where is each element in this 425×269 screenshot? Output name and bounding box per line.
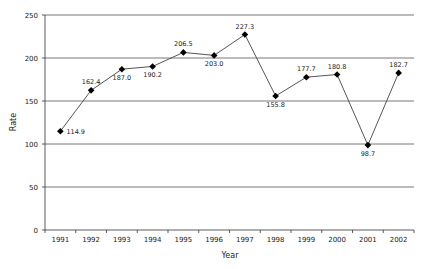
line-chart: 050100150200250 199119921993199419951996… <box>0 0 425 269</box>
data-label: 155.8 <box>266 101 285 109</box>
x-tick-label: 2000 <box>328 236 346 244</box>
y-tick-label: 50 <box>29 184 38 192</box>
x-tick-label: 2001 <box>359 236 377 244</box>
data-label: 162.4 <box>82 78 101 86</box>
x-tick-label: 1997 <box>236 236 254 244</box>
y-tick-label: 150 <box>25 98 38 106</box>
x-tick-label: 1993 <box>113 236 131 244</box>
x-tick-label: 1996 <box>205 236 223 244</box>
data-label: 203.0 <box>205 60 224 68</box>
x-tick-label: 1992 <box>82 236 100 244</box>
diamond-marker <box>180 49 187 56</box>
diamond-marker <box>272 93 279 100</box>
gridlines <box>45 15 414 187</box>
data-label: 227.3 <box>236 23 255 31</box>
data-label: 180.8 <box>328 63 347 71</box>
y-axis-label: Rate <box>9 113 18 131</box>
y-axis-ticks: 050100150200250 <box>25 12 45 235</box>
data-label: 177.7 <box>297 65 316 73</box>
x-tick-label: 1995 <box>174 236 192 244</box>
diamond-marker <box>303 74 310 81</box>
diamond-marker <box>242 31 249 38</box>
x-tick-label: 1991 <box>51 236 69 244</box>
data-line <box>60 35 398 146</box>
x-axis: 1991199219931994199519961997199819992000… <box>45 15 414 244</box>
diamond-marker <box>119 66 126 73</box>
data-label: 114.9 <box>66 128 85 136</box>
diamond-marker <box>149 63 156 70</box>
y-tick-label: 100 <box>25 141 38 149</box>
x-axis-label: Year <box>221 251 240 260</box>
data-label: 206.5 <box>174 40 193 48</box>
diamond-marker <box>395 70 402 77</box>
y-tick-label: 200 <box>25 55 38 63</box>
x-tick-label: 1994 <box>144 236 162 244</box>
data-label: 187.0 <box>113 74 132 82</box>
data-label: 98.7 <box>361 150 375 158</box>
diamond-marker <box>334 71 341 78</box>
y-tick-label: 250 <box>25 12 38 20</box>
diamond-marker <box>365 142 372 149</box>
x-tick-label: 1999 <box>297 236 315 244</box>
x-tick-label: 2002 <box>390 236 408 244</box>
y-tick-label: 0 <box>34 227 38 235</box>
x-tick-label: 1998 <box>267 236 285 244</box>
data-label: 190.2 <box>143 71 162 79</box>
data-label: 182.7 <box>389 61 408 69</box>
